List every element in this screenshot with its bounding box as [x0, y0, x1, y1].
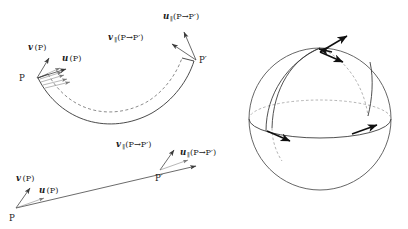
curved-path-diagram: P P′ v (P) u (P) v ∥ (P→P′) u ∥: [19, 11, 207, 124]
svg-text:(P): (P): [35, 42, 47, 52]
label-v-at-p-curved: v (P): [28, 42, 46, 52]
svg-text:(P→P′): (P→P′): [173, 11, 199, 21]
label-v-transported-straight: v ∥ (P→P′): [116, 139, 151, 150]
point-p-label-curved: P: [19, 73, 25, 83]
svg-text:u: u: [62, 53, 68, 63]
label-v-at-p-straight: v (P): [16, 173, 34, 183]
label-u-at-p-straight: u (P): [39, 185, 58, 195]
svg-text:u: u: [163, 11, 169, 21]
svg-text:(P→P′): (P→P′): [190, 147, 216, 157]
svg-text:(P): (P): [70, 53, 82, 63]
figure-root: P P′ v (P) u (P) v ∥ (P→P′) u ∥: [0, 0, 408, 229]
equator-front-arc: [249, 119, 391, 138]
svg-text:(P→P′): (P→P′): [125, 139, 151, 149]
ribbon-band: [38, 57, 192, 122]
label-u-transported-straight: u ∥ (P→P′): [180, 147, 216, 158]
meridian-left-arc: [272, 48, 320, 128]
svg-text:v: v: [108, 32, 114, 42]
point-p-prime-label-straight: P′: [155, 173, 163, 183]
sphere-outline-circle: [249, 48, 391, 190]
label-u-transported-curved: u ∥ (P→P′): [163, 11, 199, 22]
svg-text:(P): (P): [23, 173, 35, 183]
label-v-transported-curved: v ∥ (P→P′): [108, 32, 143, 43]
straight-path-diagram: P P′ v (P) u (P) v ∥ (P→P′) u ∥: [9, 139, 216, 223]
svg-text:v: v: [28, 42, 34, 52]
svg-text:u: u: [39, 185, 45, 195]
svg-text:(P→P′): (P→P′): [117, 32, 143, 42]
label-u-at-p-curved: u (P): [62, 53, 81, 63]
svg-text:(P): (P): [47, 185, 59, 195]
vector-v-transported-straight: [160, 150, 174, 170]
sphere-vector-pole-right: [320, 52, 343, 62]
point-p-prime-label-curved: P′: [199, 55, 207, 65]
sphere-vector-equator-right: [352, 125, 377, 134]
sphere-diagram: [249, 36, 391, 190]
meridian-right-arc: [320, 48, 368, 116]
svg-text:u: u: [180, 147, 186, 157]
point-p-label-straight: P: [9, 213, 15, 223]
vector-u-at-p-straight: [16, 198, 44, 208]
svg-text:v: v: [116, 139, 122, 149]
figure-canvas: P P′ v (P) u (P) v ∥ (P→P′) u ∥: [0, 0, 408, 229]
svg-text:v: v: [16, 173, 22, 183]
great-circle-left-arc: [266, 48, 320, 131]
meridian-right-front-arc: [368, 62, 372, 116]
